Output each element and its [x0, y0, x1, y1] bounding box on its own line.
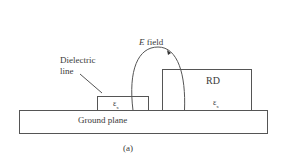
- figure-caption: (a): [123, 143, 133, 153]
- e-field-label: E field: [139, 37, 163, 47]
- e-field-label-rest: field: [145, 37, 164, 47]
- epsilon-subscript: x: [216, 104, 219, 109]
- epsilon-subscript: x: [116, 105, 119, 110]
- dielectric-label-line2: line: [60, 66, 74, 76]
- dielectric-line-box: [98, 97, 149, 111]
- e-field-arc: [132, 47, 185, 111]
- diagram-canvas: [0, 0, 282, 166]
- dielectric-leader-line: [80, 74, 102, 93]
- ground-plane-label: Ground plane: [78, 115, 127, 125]
- rd-label: RD: [206, 76, 220, 86]
- ground-plane: [20, 111, 268, 134]
- rd-permittivity-label: εx: [213, 98, 219, 112]
- dielectric-permittivity-label: εx: [113, 99, 119, 113]
- dielectric-label-line1: Dielectric: [60, 55, 95, 65]
